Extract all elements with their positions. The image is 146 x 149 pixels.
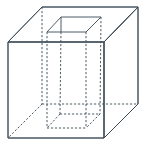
right-face: [104, 7, 138, 138]
cube-with-hole-figure: [0, 0, 146, 149]
front-face: [8, 42, 104, 138]
hidden-hole-bottom: [47, 114, 100, 128]
hidden-hole-edges: [47, 17, 101, 128]
top-face: [8, 7, 138, 42]
hole-opening: [47, 17, 101, 32]
cube-diagram: [0, 0, 146, 149]
